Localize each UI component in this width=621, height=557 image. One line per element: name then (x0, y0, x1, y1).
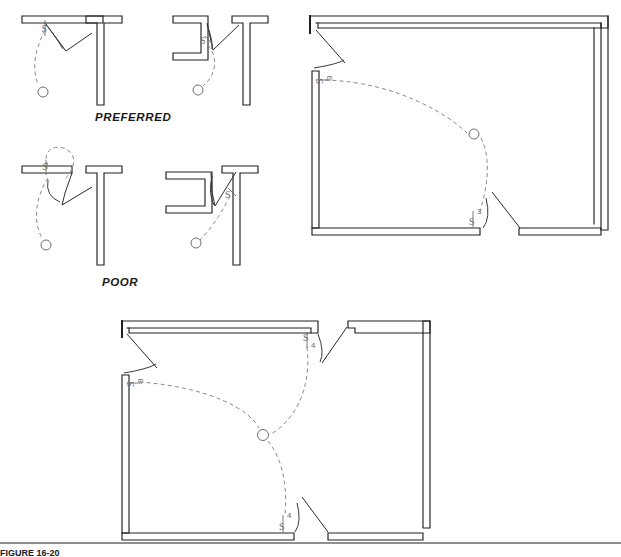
switch-left: S 3 (125, 378, 145, 387)
wall-vertical (86, 16, 122, 105)
cable-run (35, 30, 45, 84)
copyright-notice: © Cengage Learning 2014 (600, 551, 607, 557)
cable-run-top-to-fixture (271, 347, 308, 434)
cable-run-fixture-to-bottom (268, 441, 286, 515)
door-leaf-extension (66, 33, 92, 51)
caption-preferred: PREFERRED (95, 111, 171, 123)
lighting-outlet (258, 430, 269, 441)
cable-run-to-fixture-left (325, 80, 467, 133)
svg-text:S: S (200, 35, 206, 46)
panel-preferred-left: S (22, 16, 122, 105)
wall-right-outer (601, 16, 608, 230)
door-swing-arc-lower (48, 180, 61, 202)
door-leaf-extension (213, 25, 239, 50)
wall-left (122, 375, 129, 533)
door-leaf-bottom (492, 192, 520, 228)
wall-top-outer (310, 16, 608, 28)
wall-bottom-right (328, 533, 423, 540)
lighting-outlet (38, 87, 48, 97)
switch-symbol: S (42, 20, 48, 36)
switch-rating-label: 3 (325, 75, 334, 80)
wall-vertical (86, 166, 122, 265)
figure-number: FIGURE 16-20 (0, 548, 60, 557)
floorplan-three-way: S 3 S 3 (310, 16, 608, 235)
door-swing-upper-left (314, 60, 344, 68)
door-swing-top-right (318, 334, 322, 362)
wall-bottom-right (519, 228, 601, 235)
switch-rating-label: 3 (136, 378, 145, 383)
panel-preferred-right: S (173, 16, 268, 105)
door-swing-arc (45, 23, 63, 49)
cable-run (203, 45, 215, 86)
wall-top-left-outer (122, 321, 318, 333)
svg-text:S: S (43, 161, 49, 172)
wall-bottom-left (312, 228, 480, 235)
door-leaf-bottom-right (302, 497, 328, 532)
svg-text:S: S (279, 521, 285, 532)
switch-3way-bottom: S 3 (469, 207, 482, 227)
wall-u-shape (166, 172, 212, 213)
switch-symbol: S (225, 188, 236, 200)
lighting-outlet (193, 85, 203, 95)
panel-poor-left: S (22, 147, 122, 265)
wall-vertical (232, 16, 268, 105)
wall-top-right (348, 321, 430, 333)
figure-root: S S PREFERRED (0, 0, 621, 557)
door-leaf-upper-left (127, 334, 157, 368)
lighting-outlet (41, 240, 51, 250)
switch-3way-left: S 3 (314, 75, 334, 84)
panel-poor-right: S (166, 166, 258, 265)
switch-top: S 4 (303, 332, 316, 350)
figure-caption: FIGURE 16-20 (0, 548, 60, 557)
wall-top-inner (316, 23, 601, 28)
switch-rating-label: 3 (477, 207, 482, 216)
wall-top-left-inner (127, 328, 311, 333)
floorplan-four-way: S 3 S 4 S 4 (122, 321, 430, 540)
cable-run (36, 178, 48, 238)
caption-poor: POOR (102, 276, 138, 288)
lighting-outlet (191, 238, 201, 248)
cable-run-to-fixture-bottom (479, 138, 487, 214)
wall-horizontal (22, 16, 103, 23)
cable-run-left-to-fixture (139, 382, 259, 428)
svg-text:S: S (225, 189, 231, 200)
switch-rating-label: 4 (311, 341, 316, 350)
wall-vertical (222, 166, 258, 265)
wall-left (312, 71, 319, 228)
door-swing-bottom-right (295, 503, 299, 532)
switch-rating-label: 4 (287, 511, 292, 520)
door-leaf-top-right (322, 327, 347, 363)
door-leaf-upper-left (316, 30, 345, 63)
svg-text:S: S (303, 332, 309, 343)
door-swing-upper-left (124, 364, 156, 373)
door-swing-bottom (483, 198, 488, 228)
wall-right (423, 321, 430, 528)
wall-bottom-left (122, 533, 294, 540)
lighting-outlet (469, 129, 479, 139)
svg-text:S: S (314, 78, 325, 84)
svg-text:S: S (469, 216, 475, 227)
svg-text:S: S (125, 381, 136, 387)
switch-bottom: S 4 (279, 511, 292, 532)
cable-run-loop (46, 147, 74, 180)
technical-drawing-canvas: S S PREFERRED (0, 0, 621, 557)
